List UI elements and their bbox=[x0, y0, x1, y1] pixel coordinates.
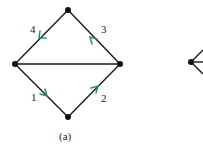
edge-label-4: 4 bbox=[30, 24, 36, 35]
edge-2 bbox=[68, 64, 120, 117]
arrow-icon-edge-3 bbox=[90, 37, 97, 44]
edge-label-3: 3 bbox=[101, 24, 107, 35]
node-left bbox=[12, 61, 18, 67]
edge-4 bbox=[15, 10, 68, 64]
node-bottom bbox=[65, 114, 71, 120]
edge-1 bbox=[15, 64, 68, 117]
node-right bbox=[117, 61, 123, 67]
node-top bbox=[65, 7, 71, 13]
edge-label-2: 2 bbox=[101, 93, 107, 104]
node-partial-right bbox=[188, 59, 194, 65]
edge-label-1: 1 bbox=[31, 92, 37, 103]
edge-3 bbox=[68, 10, 120, 64]
figure-caption: (a) bbox=[59, 131, 71, 142]
